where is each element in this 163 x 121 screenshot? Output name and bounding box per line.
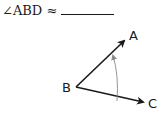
vertex-label-b: B: [62, 81, 71, 94]
point-label-c: C: [148, 97, 157, 110]
angle-arc: [113, 56, 118, 101]
ray-ba: [76, 41, 124, 87]
ray-bc: [76, 87, 143, 102]
angle-figure: [0, 0, 163, 121]
point-label-a: A: [129, 29, 138, 42]
